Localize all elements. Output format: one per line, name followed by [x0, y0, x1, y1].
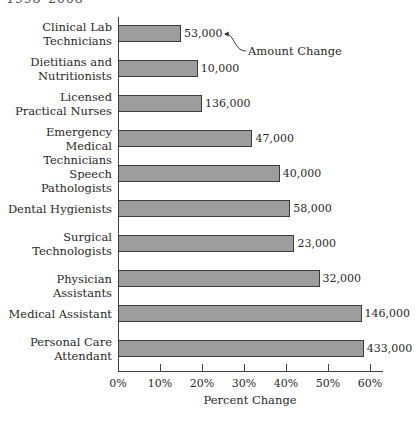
- annotation-arrow-icon: [0, 0, 419, 422]
